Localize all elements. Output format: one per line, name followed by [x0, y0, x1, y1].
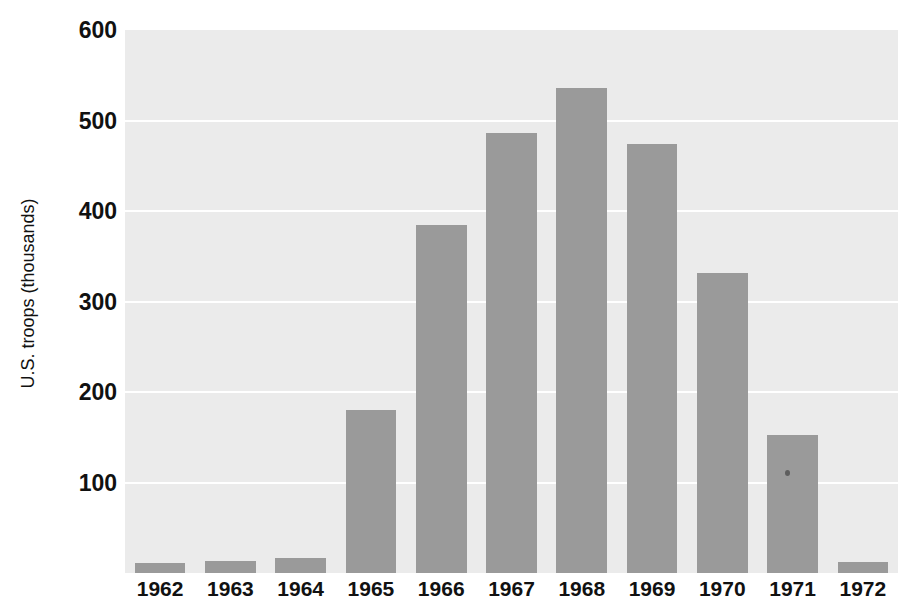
- bar-1972: [838, 562, 889, 573]
- bar-1969: [627, 144, 678, 573]
- x-axis: 1962196319641965196619671968196919701971…: [125, 577, 898, 611]
- y-axis-tick-label: 100: [7, 472, 117, 495]
- x-axis-tick-label-1968: 1968: [547, 577, 617, 600]
- bar-1965: [346, 410, 397, 573]
- bar-1971: [767, 435, 818, 573]
- bar-1964: [275, 558, 326, 573]
- bar-1962: [135, 563, 186, 573]
- x-axis-tick-label-1966: 1966: [406, 577, 476, 600]
- x-axis-tick-label-1967: 1967: [476, 577, 546, 600]
- bar-chart: U.S. troops (thousands) 1002003004005006…: [0, 0, 898, 615]
- bar-1967: [486, 133, 537, 573]
- bar-1970: [697, 273, 748, 573]
- y-axis: U.S. troops (thousands) 1002003004005006…: [0, 0, 117, 615]
- x-axis-tick-label-1965: 1965: [336, 577, 406, 600]
- y-axis-tick-label: 300: [7, 291, 117, 314]
- bar-1968: [556, 88, 607, 573]
- bar-1966: [416, 225, 467, 573]
- x-axis-tick-label-1972: 1972: [828, 577, 898, 600]
- gridline: [125, 120, 898, 122]
- plot-area: [125, 30, 898, 573]
- bar-1963: [205, 561, 256, 573]
- x-axis-tick-label-1962: 1962: [125, 577, 195, 600]
- x-axis-tick-label-1963: 1963: [195, 577, 265, 600]
- y-axis-tick-label: 500: [7, 110, 117, 133]
- x-axis-tick-label-1964: 1964: [266, 577, 336, 600]
- x-axis-tick-label-1970: 1970: [687, 577, 757, 600]
- y-axis-tick-label: 600: [7, 19, 117, 42]
- x-axis-tick-label-1969: 1969: [617, 577, 687, 600]
- y-axis-tick-label: 400: [7, 200, 117, 223]
- x-axis-tick-label-1971: 1971: [757, 577, 827, 600]
- y-axis-tick-label: 200: [7, 381, 117, 404]
